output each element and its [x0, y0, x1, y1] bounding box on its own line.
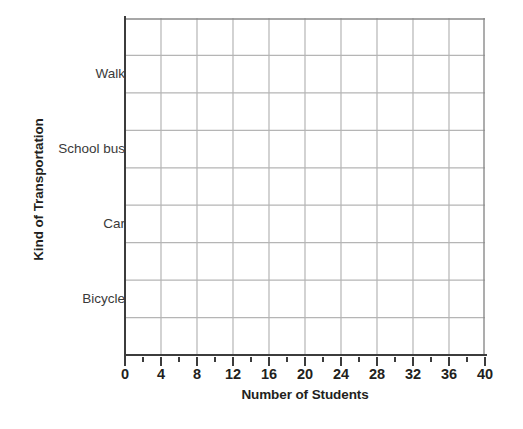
- x-axis-minor-tick: [430, 357, 432, 362]
- x-axis-minor-tick: [214, 357, 216, 362]
- y-axis-category-label: Bicycle: [13, 292, 125, 306]
- x-axis-tick-label: 32: [393, 366, 433, 383]
- x-axis-major-tick: [232, 357, 234, 366]
- x-axis-tick-label: 40: [465, 366, 505, 383]
- grid-lines: [125, 18, 485, 355]
- y-axis-line: [124, 16, 126, 357]
- x-axis-major-tick: [448, 357, 450, 366]
- x-axis-minor-tick: [322, 357, 324, 362]
- x-axis-major-tick: [160, 357, 162, 366]
- y-axis-category-label: School bus: [13, 142, 125, 156]
- x-axis-major-tick: [268, 357, 270, 366]
- x-axis-minor-tick: [358, 357, 360, 362]
- x-axis-minor-tick: [142, 357, 144, 362]
- y-axis-labels: WalkSchool busCarBicycle: [8, 18, 125, 355]
- x-axis-major-tick: [196, 357, 198, 366]
- x-axis-major-tick: [340, 357, 342, 366]
- x-axis-major-tick: [484, 357, 486, 366]
- x-axis-major-tick: [412, 357, 414, 366]
- x-axis-minor-tick: [466, 357, 468, 362]
- x-axis-minor-tick: [286, 357, 288, 362]
- x-axis-tick-label: 24: [321, 366, 361, 383]
- x-axis-tick-label: 0: [105, 366, 145, 383]
- x-axis-minor-tick: [178, 357, 180, 362]
- x-axis-minor-tick: [394, 357, 396, 362]
- x-axis-title: Number of Students: [125, 387, 485, 402]
- x-axis-major-tick: [124, 357, 126, 366]
- x-axis-tick-labels: 0481216202428323640: [125, 366, 485, 386]
- x-axis-major-tick: [304, 357, 306, 366]
- x-axis-tick-label: 20: [285, 366, 325, 383]
- x-axis-tick-label: 12: [213, 366, 253, 383]
- x-axis-minor-tick: [250, 357, 252, 362]
- y-axis-category-label: Car: [13, 217, 125, 231]
- y-axis-category-label: Walk: [13, 67, 125, 81]
- x-axis-tick-label: 28: [357, 366, 397, 383]
- x-axis-tick-label: 4: [141, 366, 181, 383]
- x-axis-tick-label: 8: [177, 366, 217, 383]
- x-axis-major-tick: [376, 357, 378, 366]
- x-axis-tick-label: 16: [249, 366, 289, 383]
- x-axis-tick-label: 36: [429, 366, 469, 383]
- plot-area: [125, 18, 485, 355]
- bar-graph-worksheet: Kind of Transportation WalkSchool busCar…: [0, 0, 523, 429]
